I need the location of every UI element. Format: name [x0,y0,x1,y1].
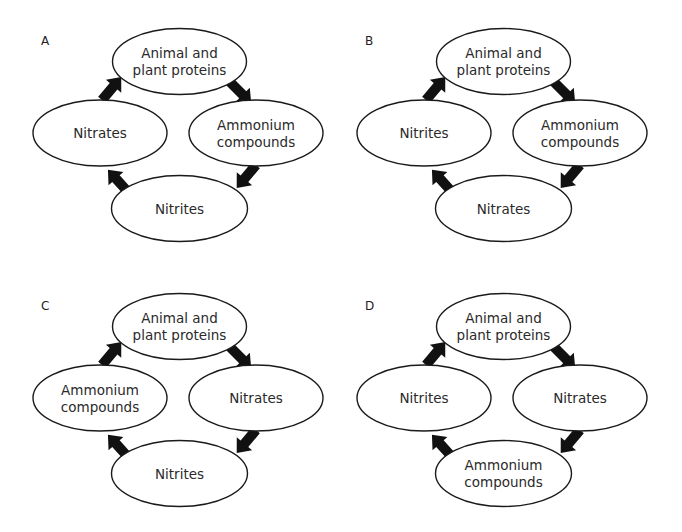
node-bottom: Nitrites [112,441,248,507]
node-label: compounds [464,474,542,490]
node-right: Nitrates [189,365,323,431]
node-right: Ammoniumcompounds [189,100,323,166]
option-label: D [365,299,374,313]
node-label: Ammonium [541,117,619,133]
node-label: Nitrites [155,201,204,217]
node-label: compounds [61,399,139,415]
node-right: Ammoniumcompounds [513,100,647,166]
option-label: B [365,34,373,48]
node-bottom: Nitrates [436,176,572,242]
node-label: compounds [217,134,295,150]
node-label: Animal and [141,310,217,326]
node-label: plant proteins [457,327,551,343]
node-label: plant proteins [133,62,227,78]
node-label: Nitrites [399,390,448,406]
node-left: Nitrates [33,100,167,166]
node-label: Ammonium [61,382,139,398]
node-top: Animal andplant proteins [113,294,247,360]
node-label: Ammonium [465,457,543,473]
option-panel-a: AAnimal andplant proteinsAmmoniumcompoun… [33,29,323,242]
node-label: Nitrates [477,201,531,217]
node-label: compounds [541,134,619,150]
node-label: Animal and [465,45,541,61]
node-label: plant proteins [457,62,551,78]
node-left: Ammoniumcompounds [33,365,167,431]
node-label: Animal and [465,310,541,326]
node-bottom: Ammoniumcompounds [436,441,572,507]
option-panel-c: CAnimal andplant proteinsNitratesNitrite… [33,294,323,507]
node-label: Nitrates [553,390,607,406]
node-label: Ammonium [217,117,295,133]
node-bottom: Nitrites [112,176,248,242]
node-label: Nitrites [155,466,204,482]
option-label: C [41,299,49,313]
node-top: Animal andplant proteins [437,294,571,360]
option-label: A [41,34,50,48]
node-label: Nitrates [73,125,127,141]
option-panel-b: BAnimal andplant proteinsAmmoniumcompoun… [357,29,647,242]
option-panel-d: DAnimal andplant proteinsNitratesAmmoniu… [357,294,647,507]
node-top: Animal andplant proteins [437,29,571,95]
node-left: Nitrites [357,365,491,431]
nitrogen-cycle-options: AAnimal andplant proteinsAmmoniumcompoun… [0,0,682,532]
node-left: Nitrites [357,100,491,166]
node-label: Nitrites [399,125,448,141]
node-top: Animal andplant proteins [113,29,247,95]
node-right: Nitrates [513,365,647,431]
node-label: Nitrates [229,390,283,406]
node-label: Animal and [141,45,217,61]
node-label: plant proteins [133,327,227,343]
